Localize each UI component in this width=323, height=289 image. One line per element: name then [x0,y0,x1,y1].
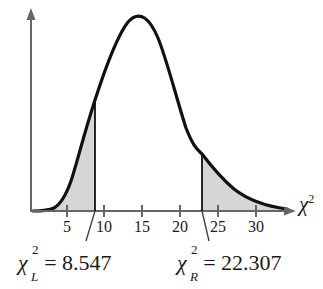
tick-label-25: 25 [203,219,233,235]
x-axis-arrowhead [284,207,296,216]
chi-exponent-right: 2 [191,243,198,256]
tick-label-20: 20 [165,219,195,235]
chi-symbol-left: χ2L [18,252,28,274]
chi-subscript-left: L [31,270,38,283]
tick-label-30: 30 [241,219,271,235]
equals-sign-left: = [44,250,56,275]
annotation-chi-square-left: χ2L = 8.547 [18,252,112,274]
tick-label-15: 15 [127,219,157,235]
chi-exponent-left: 2 [32,243,39,256]
equals-sign-right: = [203,250,215,275]
annotation-chi-square-right: χ2R = 22.307 [177,252,282,274]
right-tail-shaded-region [202,154,285,211]
x-axis-label-exponent: 2 [308,192,314,206]
y-axis-arrowhead [27,8,36,20]
chi-square-curve-plot [0,0,323,289]
x-axis-label: χ2 [299,193,314,215]
tick-label-5: 5 [52,219,82,235]
x-axis-label-symbol: χ [299,192,308,216]
chi-subscript-right: R [190,270,198,283]
chi-glyph-left: χ [18,250,28,275]
chi-square-right-value: 22.307 [221,250,282,275]
chi-square-left-value: 8.547 [62,250,112,275]
tick-label-10: 10 [89,219,119,235]
chi-symbol-right: χ2R [177,252,187,274]
chi-glyph-right: χ [177,250,187,275]
density-curve [33,16,287,211]
chi-square-distribution-figure: 5 10 15 20 25 30 χ2 χ2L = 8.547 χ2R = 22… [0,0,323,289]
